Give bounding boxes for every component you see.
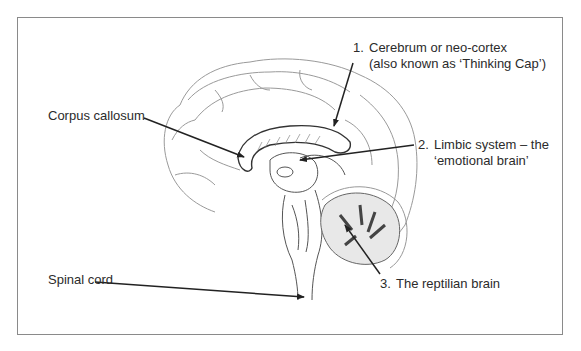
label-subtext: ‘emotional brain’	[418, 153, 529, 168]
label-spinal-cord: Spinal cord	[48, 272, 113, 288]
label-text: Limbic system – the	[434, 137, 549, 152]
label-cerebrum: 1.Cerebrum or neo-cortex (also known as …	[353, 40, 546, 72]
label-corpus-callosum: Corpus callosum	[48, 108, 145, 124]
label-text: Spinal cord	[48, 272, 113, 287]
label-number: 2.	[418, 137, 434, 153]
brainstem	[282, 190, 322, 300]
label-text: The reptilian brain	[396, 276, 500, 291]
label-number: 3.	[380, 276, 396, 292]
arrow-spinal	[95, 282, 304, 297]
label-text: Corpus callosum	[48, 108, 145, 123]
label-number: 1.	[353, 40, 369, 56]
label-subtext: (also known as ‘Thinking Cap’)	[353, 56, 546, 71]
label-limbic: 2.Limbic system – the ‘emotional brain’	[418, 137, 549, 169]
label-reptilian: 3.The reptilian brain	[380, 276, 500, 292]
corpus-callosum	[238, 126, 350, 172]
cerebellum	[321, 187, 407, 268]
arrow-corpus	[144, 118, 244, 157]
arrow-cerebrum	[334, 63, 353, 126]
label-text: Cerebrum or neo-cortex	[369, 40, 507, 55]
